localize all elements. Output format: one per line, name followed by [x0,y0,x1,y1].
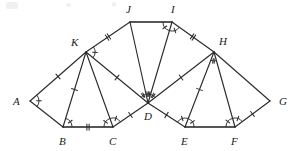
vertex-label-B: B [59,135,66,147]
vertex-label-K: K [70,36,79,48]
vertex-label-I: I [170,3,176,15]
angle-F-HE [226,118,233,127]
tick-D-E [165,112,168,117]
vertex-label-A: A [12,95,20,107]
vertex-label-C: C [109,135,117,147]
segment-A-B [30,101,63,127]
tick-C-D [129,112,133,117]
geometry-canvas: ABCDEFGHIJK [0,0,298,151]
segment-H-G [214,52,270,101]
vertex-label-E: E [180,135,188,147]
tick-mark-layer [56,34,254,130]
geometry-figure: ABCDEFGHIJK [0,0,298,151]
segment-H-F [214,52,235,127]
vertex-label-G: G [279,95,287,107]
vertex-label-layer: ABCDEFGHIJK [12,3,287,147]
angle-D-KJ [141,93,146,98]
segment-K-J [86,22,130,52]
vertex-label-D: D [143,110,152,122]
angle-I-DH [169,27,179,32]
segment-I-H [172,22,214,52]
scan-smudge-top-left [6,2,18,9]
angle-KCB [104,119,110,127]
scan-artifact-layer [6,2,116,9]
tick-F-G [251,112,255,117]
angle-E-HF [188,119,194,127]
angle-I-JD [163,22,169,31]
segment-I-D [148,22,172,103]
scan-smudge-top-mid [66,3,71,7]
angle-A [37,95,42,107]
angle-F-HG [233,116,243,121]
vertex-label-F: F [230,135,238,147]
angle-KCD [110,116,120,122]
angle-ABK [66,118,72,127]
scan-smudge-top-right [112,2,116,7]
vertex-label-H: H [218,35,228,47]
angle-K-top [93,47,98,58]
vertex-label-J: J [126,3,132,15]
